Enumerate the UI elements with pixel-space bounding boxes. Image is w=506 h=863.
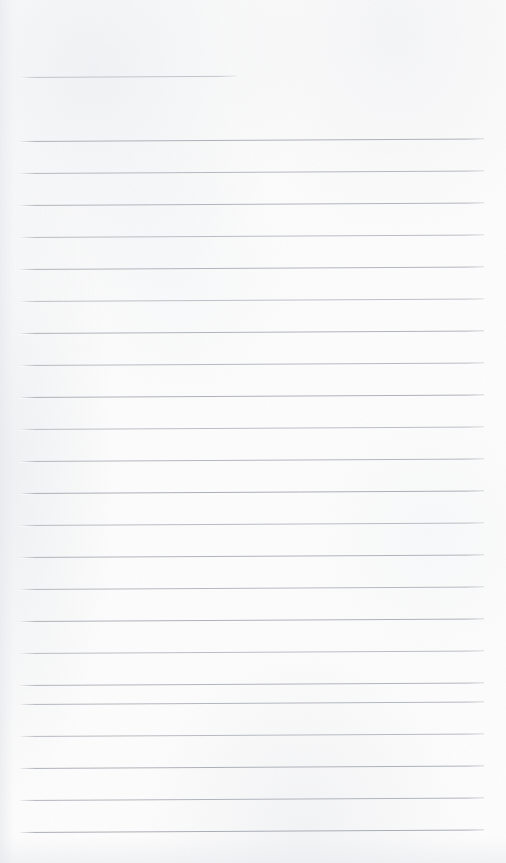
writing-area[interactable] — [20, 95, 484, 845]
header-rule — [20, 76, 236, 78]
lined-paper-page — [0, 0, 506, 863]
